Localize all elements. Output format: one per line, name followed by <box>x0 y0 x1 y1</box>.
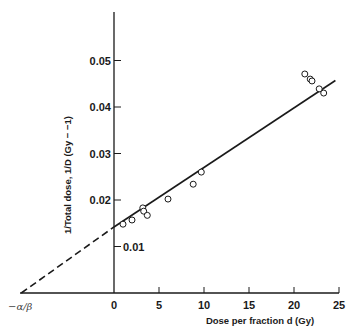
data-point <box>309 78 315 84</box>
y-tick-label: 0.01 <box>123 241 144 253</box>
data-point <box>302 71 308 77</box>
data-points <box>120 71 327 227</box>
x-tick-label: 20 <box>288 299 300 311</box>
axis-labels: −α/β Dose per fraction d (Gy) 1/Total do… <box>8 116 314 326</box>
data-point <box>120 221 126 227</box>
x-tick-label: 25 <box>333 299 345 311</box>
x-tick-label: 5 <box>156 299 162 311</box>
data-point <box>165 196 171 202</box>
y-tick-label: 0.02 <box>90 194 111 206</box>
data-point <box>321 90 327 96</box>
data-point <box>144 212 150 218</box>
y-axis-title: 1/Total dose, 1/D (Gy − −1) <box>62 116 73 234</box>
x-tick-label: 0 <box>111 299 117 311</box>
alpha-beta-label: −α/β <box>8 301 33 312</box>
extrapolation-line <box>21 227 114 293</box>
fit-line <box>114 80 335 226</box>
y-tick-label: 0.04 <box>90 101 112 113</box>
x-tick-label: 10 <box>198 299 210 311</box>
data-point <box>198 169 204 175</box>
y-tick-label: 0.03 <box>90 148 111 160</box>
y-tick-label: 0.05 <box>90 55 111 67</box>
x-tick-label: 15 <box>243 299 255 311</box>
data-point <box>190 181 196 187</box>
data-point <box>129 217 135 223</box>
chart: 05101520250.010.020.030.040.05 −α/β Dose… <box>0 0 358 333</box>
x-axis-title: Dose per fraction d (Gy) <box>206 315 314 326</box>
